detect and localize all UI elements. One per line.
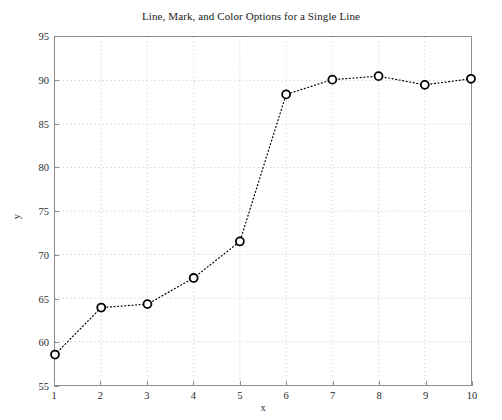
chart-figure: Line, Mark, and Color Options for a Sing… — [0, 0, 502, 420]
x-tick-mark — [100, 381, 101, 386]
y-tick-mark — [54, 80, 59, 81]
x-tick-label: 1 — [39, 390, 69, 401]
x-tick-label: 5 — [225, 390, 255, 401]
x-tick-mark — [333, 381, 334, 386]
y-tick-label: 60 — [9, 337, 49, 348]
y-tick-mark — [54, 299, 59, 300]
x-tick-mark — [379, 381, 380, 386]
y-tick-mark — [54, 211, 59, 212]
data-series-layer — [55, 37, 471, 385]
x-tick-mark — [193, 381, 194, 386]
y-tick-mark — [54, 386, 59, 387]
y-tick-label: 80 — [9, 162, 49, 173]
x-tick-label: 9 — [411, 390, 441, 401]
x-tick-label: 7 — [318, 390, 348, 401]
x-tick-label: 10 — [457, 390, 487, 401]
x-tick-mark — [54, 381, 55, 386]
y-tick-mark — [54, 36, 59, 37]
x-tick-mark — [147, 381, 148, 386]
x-tick-mark — [240, 381, 241, 386]
x-tick-mark — [286, 381, 287, 386]
y-tick-label: 75 — [9, 206, 49, 217]
y-tick-label: 70 — [9, 249, 49, 260]
x-tick-mark — [426, 381, 427, 386]
y-tick-mark — [54, 255, 59, 256]
y-tick-label: 95 — [9, 31, 49, 42]
y-tick-label: 65 — [9, 293, 49, 304]
x-tick-label: 2 — [85, 390, 115, 401]
y-tick-label: 90 — [9, 74, 49, 85]
chart-title: Line, Mark, and Color Options for a Sing… — [0, 10, 502, 22]
x-tick-mark — [472, 381, 473, 386]
x-tick-label: 8 — [364, 390, 394, 401]
y-tick-mark — [54, 342, 59, 343]
x-tick-label: 6 — [271, 390, 301, 401]
y-tick-mark — [54, 167, 59, 168]
x-tick-label: 4 — [178, 390, 208, 401]
plot-area — [54, 36, 472, 386]
x-axis-label: x — [54, 402, 472, 413]
y-tick-label: 85 — [9, 118, 49, 129]
y-tick-mark — [54, 124, 59, 125]
x-tick-label: 3 — [132, 390, 162, 401]
